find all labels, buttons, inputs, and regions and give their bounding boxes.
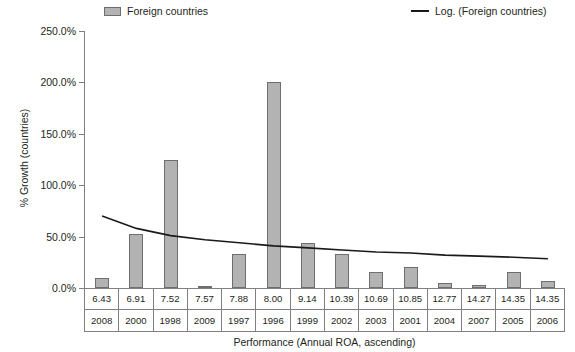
category-year-value: 1998 (154, 310, 187, 331)
legend-entry-foreign-countries: Foreign countries (104, 5, 208, 17)
category-roa-value: 7.57 (188, 288, 221, 310)
x-axis-title: Performance (Annual ROA, ascending) (84, 336, 565, 348)
category-roa-value: 10.69 (359, 288, 392, 310)
category-roa-value: 8.00 (256, 288, 289, 310)
category-roa-value: 10.85 (394, 288, 427, 310)
category-column: 14.272007 (462, 288, 496, 331)
category-column: 6.912000 (119, 288, 153, 331)
category-column: 7.521998 (154, 288, 188, 331)
category-year-value: 2007 (462, 310, 495, 331)
category-roa-value: 7.88 (222, 288, 255, 310)
category-axis-table: 6.4320086.9120007.5219987.5720097.881997… (84, 288, 565, 332)
plot-area (84, 31, 565, 288)
category-year-value: 2006 (531, 310, 564, 331)
category-year-value: 1996 (256, 310, 289, 331)
category-column: 10.392002 (325, 288, 359, 331)
chart-legend: Foreign countries Log. (Foreign countrie… (0, 2, 575, 22)
category-year-value: 2000 (119, 310, 152, 331)
category-year-value: 1999 (291, 310, 324, 331)
category-year-value: 2001 (394, 310, 427, 331)
category-roa-value: 10.39 (325, 288, 358, 310)
category-roa-value: 6.43 (85, 288, 118, 310)
category-column: 14.352006 (531, 288, 564, 331)
category-column: 12.772004 (428, 288, 462, 331)
legend-label-trend: Log. (Foreign countries) (435, 5, 546, 17)
category-roa-value: 14.27 (462, 288, 495, 310)
category-year-value: 2003 (359, 310, 392, 331)
legend-entry-log-trend: Log. (Foreign countries) (411, 5, 546, 17)
y-tick-label: 200.0% (18, 77, 76, 87)
category-column: 6.432008 (85, 288, 119, 331)
category-year-value: 2009 (188, 310, 221, 331)
category-column: 8.001996 (256, 288, 290, 331)
y-tick-label: 250.0% (18, 26, 76, 36)
category-year-value: 2002 (325, 310, 358, 331)
category-roa-value: 14.35 (531, 288, 564, 310)
category-roa-value: 12.77 (428, 288, 461, 310)
y-tick-label: 150.0% (18, 129, 76, 139)
category-year-value: 1997 (222, 310, 255, 331)
line-swatch-icon (411, 10, 429, 12)
category-year-value: 2005 (496, 310, 529, 331)
category-roa-value: 6.91 (119, 288, 152, 310)
category-roa-value: 7.52 (154, 288, 187, 310)
category-column: 7.572009 (188, 288, 222, 331)
category-year-value: 2004 (428, 310, 461, 331)
legend-label-series: Foreign countries (127, 5, 208, 17)
y-axis-ticks: 250.0%200.0%150.0%100.0%50.0%0.0% (0, 0, 76, 352)
bar-swatch-icon (104, 7, 121, 16)
category-column: 10.852001 (394, 288, 428, 331)
category-column: 9.141999 (291, 288, 325, 331)
y-tick-label: 0.0% (18, 283, 76, 293)
category-roa-value: 9.14 (291, 288, 324, 310)
category-column: 7.881997 (222, 288, 256, 331)
category-column: 14.352005 (496, 288, 530, 331)
y-tick-label: 100.0% (18, 180, 76, 190)
category-roa-value: 14.35 (496, 288, 529, 310)
roa-growth-chart: Foreign countries Log. (Foreign countrie… (0, 0, 575, 352)
category-column: 10.692003 (359, 288, 393, 331)
log-trend-line (85, 31, 565, 288)
category-year-value: 2008 (85, 310, 118, 331)
y-tick-label: 50.0% (18, 232, 76, 242)
